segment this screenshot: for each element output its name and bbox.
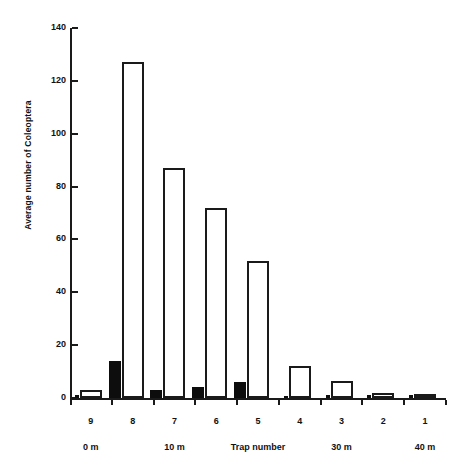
x-axis-tick	[320, 400, 322, 405]
bar-open	[331, 381, 353, 398]
bar-open	[414, 394, 436, 398]
x-axis-category-label: 4	[280, 416, 320, 426]
bar-filled	[234, 382, 246, 398]
bar-group	[321, 28, 363, 398]
y-axis-tick-label: 80	[26, 181, 66, 191]
bar-filled	[367, 395, 371, 398]
bar-filled	[150, 390, 162, 398]
x-axis-tick	[278, 400, 280, 405]
x-axis-tick	[445, 400, 447, 405]
x-axis-category-label: 8	[113, 416, 153, 426]
bar-group	[404, 28, 446, 398]
y-axis-tick-label: 120	[26, 75, 66, 85]
y-axis-tick-label: 140	[26, 22, 66, 32]
y-axis-tick-label: 60	[26, 233, 66, 243]
bar-filled	[109, 361, 121, 398]
x-axis-category-label: 7	[154, 416, 194, 426]
x-axis-category-label: 6	[196, 416, 236, 426]
x-axis-title: Trap number	[213, 442, 303, 452]
x-axis-category-label: 5	[238, 416, 278, 426]
bar-group	[195, 28, 237, 398]
y-axis-tick-label: 0	[26, 392, 66, 402]
x-axis-tick	[361, 400, 363, 405]
x-axis-tick	[236, 400, 238, 405]
x-axis-category-label: 9	[71, 416, 111, 426]
bar-open	[289, 366, 311, 398]
bar-filled	[409, 395, 413, 398]
plot-area: 020406080100120140 9876543210 m10 m30 m4…	[70, 28, 446, 400]
bar-filled	[75, 395, 79, 398]
x-axis-tick	[403, 400, 405, 405]
bar-group	[237, 28, 279, 398]
x-axis-tick	[111, 400, 113, 405]
bar-group	[362, 28, 404, 398]
bar-group	[70, 28, 112, 398]
bar-open	[80, 390, 102, 398]
bar-open	[163, 168, 185, 398]
bar-filled	[326, 395, 330, 398]
bar-group	[112, 28, 154, 398]
distance-label: 30 m	[297, 442, 387, 452]
x-axis-category-label: 3	[322, 416, 362, 426]
bar-group	[154, 28, 196, 398]
x-axis-line	[70, 398, 446, 400]
x-axis-tick	[194, 400, 196, 405]
bar-open	[247, 261, 269, 398]
y-axis-tick-label: 20	[26, 339, 66, 349]
bar-open	[372, 393, 394, 398]
y-axis-title: Average number of Coleoptera	[23, 75, 33, 255]
bar-open	[205, 208, 227, 398]
x-axis-tick	[153, 400, 155, 405]
distance-label: 40 m	[380, 442, 456, 452]
bar-filled	[192, 387, 204, 398]
bar-filled	[284, 396, 288, 398]
y-axis-tick-label: 100	[26, 128, 66, 138]
y-axis-tick-label: 40	[26, 286, 66, 296]
x-axis-category-label: 1	[405, 416, 445, 426]
x-axis-category-label: 2	[363, 416, 403, 426]
x-axis-tick	[70, 400, 72, 405]
distance-label: 0 m	[46, 442, 136, 452]
bar-open	[122, 62, 144, 398]
bar-group	[279, 28, 321, 398]
chart-figure: Average number of Coleoptera 02040608010…	[0, 0, 456, 469]
distance-label: 10 m	[129, 442, 219, 452]
